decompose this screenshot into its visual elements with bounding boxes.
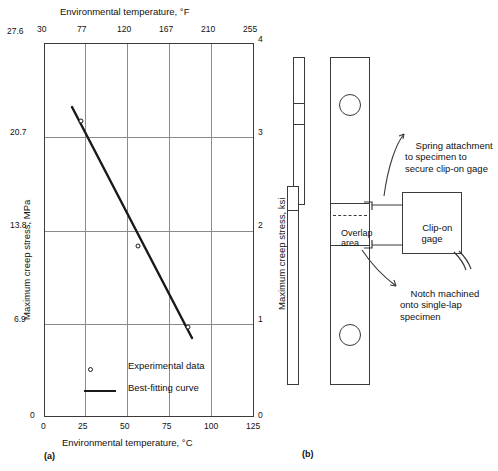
y-axis-right-tick-1: 1	[258, 314, 263, 324]
clip-on-gage-text: Clip-on gage	[421, 222, 452, 244]
y-axis-right-tick-4: 4	[258, 34, 263, 44]
y-axis-left-title: Maximum creep stress, MPa	[21, 200, 32, 320]
specimen-upper-hole	[339, 94, 361, 116]
y-axis-left-tick-0: 0	[30, 410, 35, 420]
legend-marker-line	[84, 389, 116, 392]
specimen-lower-hole	[339, 324, 361, 346]
side-view-overlap-line-bottom	[293, 124, 305, 125]
side-view-lap-line	[287, 210, 299, 211]
spring-attachment-leader-line	[360, 130, 410, 210]
figure-root: Environmental temperature, °F 30 77 120 …	[0, 0, 498, 471]
x-axis-top-tick-3: 167	[159, 24, 173, 34]
legend-label-best-fitting-curve: Best-fitting curve	[128, 382, 199, 393]
side-view-overlap-line-top	[293, 103, 305, 104]
panel-b-label: (b)	[302, 449, 314, 460]
legend-item-experimental-data: Experimental data	[84, 360, 244, 382]
x-axis-tick-25: 25	[78, 421, 87, 431]
x-axis-tick-125: 125	[246, 421, 260, 431]
x-axis-top-tick-4: 210	[201, 24, 215, 34]
data-point-2	[136, 244, 141, 249]
chart-legend: Experimental data Best-fitting curve	[84, 360, 244, 404]
x-axis-top-tick-1: 77	[77, 24, 86, 34]
legend-marker-circle	[84, 367, 93, 372]
x-axis-top-tick-2: 120	[117, 24, 131, 34]
legend-label-experimental-data: Experimental data	[128, 360, 205, 371]
notch-machined-text: Notch machined onto single-lap specimen	[400, 288, 479, 321]
x-axis-top-title: Environmental temperature, °F	[60, 6, 189, 17]
x-axis-tick-50: 50	[120, 421, 129, 431]
spring-attachment-text: Spring attachment to specimen to secure …	[405, 140, 493, 173]
x-axis-top-tick-0: 30	[37, 24, 46, 34]
panel-a-label: (a)	[44, 451, 55, 462]
y-axis-right-title: Maximum creep stress, ksi	[276, 198, 287, 310]
x-axis-tick-0: 0	[41, 421, 46, 431]
y-axis-right-tick-3: 3	[258, 127, 263, 137]
notch-machined-annotation: Notch machined onto single-lap specimen	[400, 277, 479, 333]
specimen-side-view-upper	[293, 57, 305, 205]
data-point-1	[79, 119, 84, 124]
legend-item-best-fitting-curve: Best-fitting curve	[84, 382, 244, 404]
x-axis-tick-75: 75	[162, 421, 171, 431]
y-axis-left-tick-27_6: 27.6	[7, 26, 24, 36]
x-axis-title: Environmental temperature, °C	[62, 437, 193, 448]
y-axis-left-tick-20_7: 20.7	[10, 127, 27, 137]
x-axis-top-tick-5: 255	[243, 24, 257, 34]
gage-cable-icon	[452, 250, 476, 272]
data-point-3	[186, 325, 191, 330]
y-axis-right-tick-2: 2	[258, 220, 263, 230]
x-axis-tick-100: 100	[204, 421, 218, 431]
spring-attachment-annotation: Spring attachment to specimen to secure …	[405, 129, 493, 185]
specimen-side-view-lower	[287, 186, 299, 385]
y-axis-right-tick-0: 0	[258, 410, 263, 420]
